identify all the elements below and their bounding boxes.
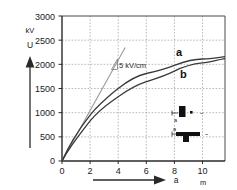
ytick-label-500: 500: [40, 132, 55, 142]
inset-bottom-plane-electrode: [176, 132, 200, 136]
ytick-label-0: 0: [50, 156, 55, 166]
inset-bottom-supply-label: ~: [205, 131, 208, 137]
ytick-label-2500: 2500: [35, 36, 55, 46]
xtick-label-6: 6: [144, 166, 149, 176]
y-axis-unit-label: kV: [26, 26, 35, 35]
series-a-label: a: [176, 46, 183, 58]
xtick-label-4: 4: [116, 166, 121, 176]
x-tick-labels: 0 2 4 6 8 10: [59, 166, 207, 176]
inset-top-supply-label: ~: [200, 110, 203, 116]
ytick-label-2000: 2000: [35, 60, 55, 70]
ytick-label-1500: 1500: [35, 84, 55, 94]
x-axis-arrow-icon: [93, 175, 166, 184]
ytick-label-3000: 3000: [35, 12, 55, 22]
x-axis-unit-label: m: [200, 178, 206, 187]
inset-top-sphere-electrode: [190, 111, 193, 114]
y-axis-symbol-label: U: [27, 40, 33, 50]
gradient-annotation-label: 5 kV/cm: [119, 61, 146, 70]
xtick-label-0: 0: [59, 166, 64, 176]
ytick-label-1000: 1000: [35, 108, 55, 118]
breakdown-voltage-chart: 3000 2500 2000 1500 1000 500 0 0 2 4 6 8…: [0, 0, 237, 190]
series-b-label: b: [180, 68, 187, 80]
inset-top-rod-electrode: [179, 106, 186, 117]
xtick-label-2: 2: [88, 166, 93, 176]
y-tick-labels: 3000 2500 2000 1500 1000 500 0: [35, 12, 55, 167]
chart-figure: 3000 2500 2000 1500 1000 500 0 0 2 4 6 8…: [0, 0, 237, 190]
x-axis-symbol-label: a: [174, 175, 179, 185]
inset-bottom-rod-electrode: [183, 136, 189, 142]
xtick-label-10: 10: [198, 166, 208, 176]
y-axis-arrow-icon: [26, 56, 35, 148]
